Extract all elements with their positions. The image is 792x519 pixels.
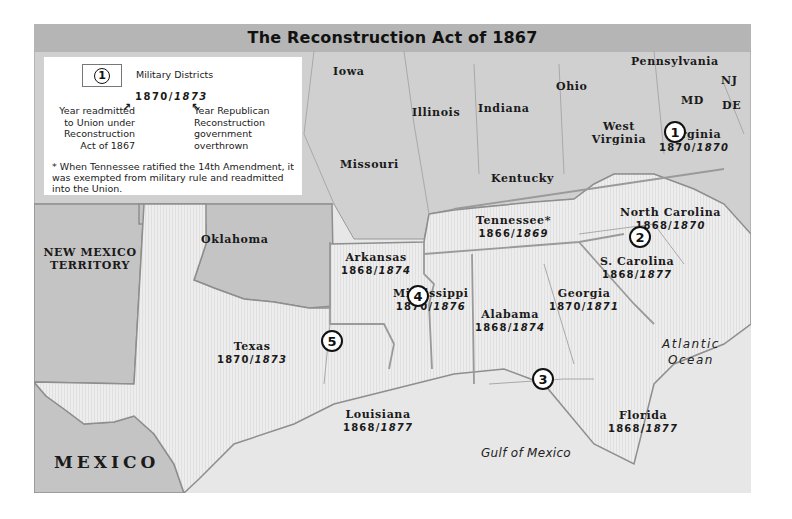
district-2-marker: 2 [629, 226, 651, 248]
label-new-mexico-territory: NEW MEXICO TERRITORY [40, 246, 140, 272]
label-gulf-of-mexico: Gulf of Mexico [481, 445, 571, 461]
label-iowa: Iowa [333, 65, 364, 78]
label-louisiana: Louisiana 1868/1877 [343, 408, 413, 434]
district-4-marker: 4 [407, 285, 429, 307]
district-3-marker: 3 [532, 368, 554, 390]
label-georgia: Georgia 1870/1871 [549, 287, 619, 313]
legend: 1 Military Districts 1870/1873 ↗ ↖ Year … [44, 57, 302, 195]
legend-readmitted-note: Year readmitted to Union under Reconstru… [51, 105, 135, 151]
label-arkansas: Arkansas 1868/1874 [341, 251, 411, 277]
label-mexico: MEXICO [54, 456, 159, 469]
legend-overthrown-note: Year Republican Reconstruction governmen… [194, 105, 294, 151]
label-md: MD [681, 94, 704, 107]
label-oklahoma: Oklahoma [201, 233, 268, 246]
label-alabama: Alabama 1868/1874 [475, 308, 545, 334]
map-frame: The Reconstruction Act of 1867 [34, 24, 751, 493]
label-nj: NJ [721, 74, 737, 87]
label-ohio: Ohio [556, 80, 588, 93]
district-5-marker: 5 [321, 330, 343, 352]
district-1-marker: 1 [664, 121, 686, 143]
legend-district-label: Military Districts [136, 69, 213, 80]
label-mississippi: Mississippi 1870/1876 [393, 287, 469, 313]
map-title: The Reconstruction Act of 1867 [248, 28, 538, 47]
new-mexico-territory-area [34, 204, 144, 384]
label-atlantic-ocean: Atlantic Ocean [662, 336, 720, 368]
map-title-bar: The Reconstruction Act of 1867 [34, 24, 751, 51]
label-florida: Florida 1868/1877 [608, 409, 678, 435]
label-pennsylvania: Pennsylvania [631, 55, 719, 68]
legend-district-key: 1 [82, 64, 122, 87]
label-illinois: Illinois [412, 106, 460, 119]
label-tennessee: Tennessee* 1866/1869 [476, 214, 551, 240]
label-de: DE [722, 99, 741, 112]
label-missouri: Missouri [340, 158, 399, 171]
district-marker-icon: 1 [94, 68, 110, 84]
label-south-carolina: S. Carolina 1868/1877 [600, 255, 674, 281]
label-kentucky: Kentucky [491, 172, 554, 185]
legend-tennessee-footnote: * When Tennessee ratified the 14th Amend… [52, 161, 297, 194]
label-indiana: Indiana [478, 102, 529, 115]
label-texas: Texas 1870/1873 [217, 340, 287, 366]
label-west-virginia: West Virginia [589, 120, 649, 146]
